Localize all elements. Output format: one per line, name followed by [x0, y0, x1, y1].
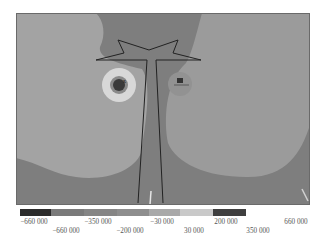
colorbar-segment — [180, 209, 213, 216]
colorbar-segment — [20, 209, 51, 216]
colorbar-tick-label: 350 000 — [246, 227, 269, 235]
colorbar — [20, 209, 280, 216]
colorbar-segment — [51, 209, 84, 216]
marker-b — [177, 78, 183, 83]
colorbar-segment — [84, 209, 117, 216]
colorbar-tick-label: 660 000 — [284, 218, 307, 226]
colorbar-segment — [213, 209, 246, 216]
right-hole — [168, 72, 192, 96]
colorbar-tick-label: −350 000 — [84, 218, 111, 226]
colorbar-tick-label: −30 000 — [150, 218, 174, 226]
marker-x: x — [123, 78, 126, 84]
colorbar-segment — [117, 209, 149, 216]
contour-plot: x — [16, 13, 310, 205]
colorbar-tick-label: −660 000 — [20, 218, 47, 226]
colorbar-tick-label: 30 000 — [184, 227, 204, 235]
colorbar-tick-label: −660 000 — [52, 227, 79, 235]
colorbar-segment — [149, 209, 180, 216]
colorbar-tick-label: −200 000 — [116, 227, 143, 235]
colorbar-tick-label: 200 000 — [214, 218, 237, 226]
contour-svg: x — [16, 13, 310, 205]
artifact-stroke — [150, 191, 151, 205]
